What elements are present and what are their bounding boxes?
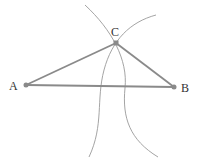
segment-cb xyxy=(116,43,174,87)
arc-centered-a xyxy=(85,5,158,157)
label-a: A xyxy=(9,80,18,92)
point-c xyxy=(114,41,119,46)
point-b xyxy=(172,85,177,90)
point-a xyxy=(24,83,29,88)
label-b: B xyxy=(181,82,189,94)
segment-ab xyxy=(26,85,174,87)
label-c: C xyxy=(111,26,119,38)
construction-drawing xyxy=(0,0,198,168)
diagram-canvas: A B C xyxy=(0,0,198,168)
